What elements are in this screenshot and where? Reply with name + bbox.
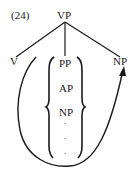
branch-vp-v xyxy=(16,22,65,57)
brace-item-ap: AP xyxy=(59,83,73,94)
left-brace xyxy=(46,57,54,158)
node-vp: VP xyxy=(57,10,71,21)
brace-item-pp: PP xyxy=(59,58,71,69)
brace-dot-2: . xyxy=(64,131,66,142)
brace-dot-1: . xyxy=(64,116,66,127)
arrowhead-icon xyxy=(119,66,126,76)
example-number: (24) xyxy=(11,10,29,21)
node-np-right: NP xyxy=(113,56,127,67)
right-brace xyxy=(77,57,85,158)
syntax-tree-diagram: (24) VP V NP PP AP NP . . . xyxy=(0,0,140,176)
brace-dot-3: . xyxy=(64,146,66,157)
branch-vp-np xyxy=(65,22,120,57)
node-v: V xyxy=(10,56,18,67)
